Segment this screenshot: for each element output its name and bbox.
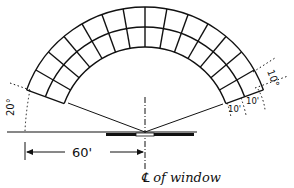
centerline-label: ℄ of window — [141, 170, 221, 185]
angle-label-right: 10° — [265, 68, 281, 88]
angle-construction-lines — [10, 58, 288, 131]
wall-right — [154, 133, 194, 136]
distance-label: 60' — [72, 145, 92, 160]
arc-radial-divider — [102, 15, 116, 53]
arc-radial-divider — [36, 70, 71, 90]
sight-line-left — [68, 103, 145, 132]
arrowhead-right — [137, 149, 144, 155]
arc-radial-divider — [48, 52, 79, 78]
window-opening — [136, 133, 154, 136]
sight-line-right — [145, 104, 223, 132]
diagram-canvas: 60' 20° 10° 10' 10' ℄ of window — [0, 0, 294, 188]
angle-label-left: 20° — [5, 98, 16, 116]
arc-radial-divider — [174, 15, 188, 53]
arc-radial-divider — [200, 36, 226, 67]
arc-radial-divider — [27, 90, 65, 104]
arc-radial-divider — [211, 52, 242, 78]
ring-width-label-2: 10' — [246, 96, 259, 106]
arc-ring — [64, 47, 226, 104]
arc-radial-divider — [82, 24, 102, 59]
arc-radial-divider — [64, 36, 90, 67]
wall-left — [106, 133, 136, 136]
arc-diagram: 60' 20° 10° 10' 10' ℄ of window — [0, 0, 294, 188]
ring-width-label-1: 10' — [228, 104, 241, 114]
arc-radial-divider — [219, 70, 254, 90]
arc-grid — [27, 7, 264, 104]
arrowhead-left — [26, 149, 33, 155]
arc-radial-divider — [188, 24, 208, 59]
